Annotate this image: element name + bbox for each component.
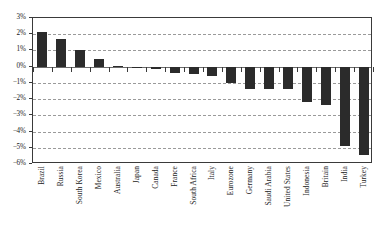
x-axis-tick-label: Eurozone (226, 166, 235, 195)
bar (56, 39, 66, 67)
x-axis-tick-mark (33, 67, 34, 72)
x-axis-tick-mark (335, 67, 336, 72)
x-axis-tick-label: Italy (207, 166, 216, 180)
x-axis-tick-mark (127, 67, 128, 72)
x-axis-tick-label: Canada (150, 166, 159, 189)
bar (94, 59, 104, 67)
x-axis-tick-mark (165, 67, 166, 72)
bar (170, 67, 180, 73)
x-axis-tick-label: Russia (56, 166, 65, 186)
bar (75, 50, 85, 67)
x-axis-tick-label: South Africa (188, 166, 197, 205)
bar (340, 67, 350, 146)
bar (207, 67, 217, 76)
x-axis-tick-mark (354, 67, 355, 72)
bar (113, 66, 123, 67)
bar-slot (184, 18, 203, 162)
bar-slot (203, 18, 222, 162)
x-axis-tick-label: Indonesia (301, 166, 310, 196)
y-axis-tick-label: 2% (17, 29, 26, 37)
bar (189, 67, 199, 74)
y-axis-tick-label: −5% (13, 143, 26, 151)
bar-slot (146, 18, 165, 162)
bar-slot (297, 18, 316, 162)
x-axis-tick-label: India (339, 166, 348, 182)
y-axis-tick-mark (29, 163, 32, 164)
y-axis-tick-label: −2% (13, 94, 26, 102)
x-axis-tick-mark (373, 67, 374, 72)
x-axis-tick-mark (316, 67, 317, 72)
bar-slot (354, 18, 373, 162)
x-axis-tick-label: Mexico (94, 166, 103, 189)
bar-slot (71, 18, 90, 162)
bar-slot (279, 18, 298, 162)
x-axis-tick-mark (241, 67, 242, 72)
x-axis-tick-label: South Korea (75, 166, 84, 204)
bar-slot (260, 18, 279, 162)
x-axis-tick-mark (203, 67, 204, 72)
bar (283, 67, 293, 90)
y-axis-tick-label: −1% (13, 78, 26, 86)
x-axis-tick-label: Germany (245, 166, 254, 194)
bar-chart: 3%2%1%0%−1%−2%−3%−4%−5%−6% BrazilRussiaS… (0, 0, 383, 227)
x-axis-tick-label: United States (283, 166, 292, 207)
plot-inner (33, 18, 371, 162)
x-axis-tick-mark (260, 67, 261, 72)
x-axis-tick-label: Japan (131, 166, 140, 183)
x-axis: BrazilRussiaSouth KoreaMexicoAustraliaJa… (32, 166, 372, 227)
bar-slot (33, 18, 52, 162)
x-axis-tick-label: Australia (113, 166, 122, 194)
bar-slot (165, 18, 184, 162)
bar-slot (222, 18, 241, 162)
x-axis-tick-mark (109, 67, 110, 72)
x-axis-tick-mark (146, 67, 147, 72)
y-axis: 3%2%1%0%−1%−2%−3%−4%−5%−6% (0, 17, 30, 163)
x-axis-tick-label: Brazil (37, 166, 46, 185)
x-axis-tick-mark (71, 67, 72, 72)
x-axis-tick-mark (297, 67, 298, 72)
x-axis-tick-label: France (169, 166, 178, 187)
bar (37, 32, 47, 67)
y-axis-tick-label: 0% (17, 62, 26, 70)
x-axis-tick-mark (52, 67, 53, 72)
y-axis-tick-label: 3% (17, 13, 26, 21)
y-axis-tick-label: −3% (13, 110, 26, 118)
x-axis-tick-label: Turkey (358, 166, 367, 188)
y-axis-tick-label: 1% (17, 45, 26, 53)
x-axis-tick-label: Saudi Arabia (264, 166, 273, 206)
bar (302, 67, 312, 102)
plot-area (32, 17, 372, 163)
x-axis-tick-label: Britain (320, 166, 329, 187)
bar (226, 67, 236, 83)
bar-slot (316, 18, 335, 162)
y-axis-tick-label: −4% (13, 127, 26, 135)
bar-slot (241, 18, 260, 162)
bar (359, 67, 369, 155)
bar-slot (335, 18, 354, 162)
x-axis-tick-mark (279, 67, 280, 72)
bar (245, 67, 255, 89)
x-axis-tick-mark (184, 67, 185, 72)
bar (132, 67, 142, 68)
bar-slot (52, 18, 71, 162)
y-axis-tick-label: −6% (13, 159, 26, 167)
x-axis-tick-mark (222, 67, 223, 72)
bar (321, 67, 331, 105)
bar (264, 67, 274, 90)
bar-slot (109, 18, 128, 162)
x-axis-tick-mark (90, 67, 91, 72)
bar-slot (127, 18, 146, 162)
bar (151, 67, 161, 69)
bar-slot (90, 18, 109, 162)
